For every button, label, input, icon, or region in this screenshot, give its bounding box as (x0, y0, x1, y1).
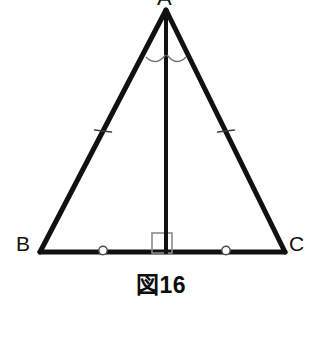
vertex-label-b: B (16, 233, 30, 254)
angle-arc-bad-icon (146, 55, 166, 62)
figure-caption: 図16 (0, 274, 322, 297)
geometry-diagram (0, 0, 322, 363)
figure-stage: A B C 図16 (0, 0, 322, 363)
vertex-label-c: C (289, 233, 304, 254)
circle-mark-dc-icon (222, 246, 230, 254)
angle-arc-dac-icon (167, 55, 186, 62)
vertex-label-a: A (157, 0, 172, 9)
tick-side-ab-icon (95, 123, 112, 140)
circle-mark-bd-icon (99, 246, 107, 254)
